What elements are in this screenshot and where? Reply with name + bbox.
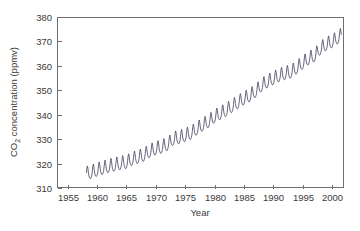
plot-frame: [58, 18, 344, 188]
x-tick-label: 1965: [116, 192, 137, 203]
y-axis-title-prefix: CO: [8, 143, 19, 157]
x-tick-label: 1990: [263, 192, 284, 203]
co2-series-line: [86, 29, 341, 179]
x-tick-label: 1985: [234, 192, 255, 203]
y-tick-label: 330: [36, 134, 52, 145]
x-tick-label: 1960: [87, 192, 108, 203]
x-axis-title: Year: [190, 207, 209, 218]
y-tick-label: 360: [36, 61, 52, 72]
chart-canvas: 310320330340350360370380 195519601965197…: [0, 0, 360, 231]
y-tick-label: 380: [36, 12, 52, 23]
y-tick-label: 310: [36, 183, 52, 194]
y-axis-title-text: CO2 concentration (ppmv): [8, 47, 21, 157]
y-tick-label: 320: [36, 159, 52, 170]
x-tick-label: 1995: [293, 192, 314, 203]
y-tick-label: 350: [36, 85, 52, 96]
chart-figure: 310320330340350360370380 195519601965197…: [0, 0, 360, 231]
x-tick-label: 1980: [205, 192, 226, 203]
x-tick-label: 1955: [58, 192, 79, 203]
x-tick-label: 2000: [322, 192, 343, 203]
y-tick-label: 340: [36, 110, 52, 121]
y-axis-title: CO2 concentration (ppmv): [8, 47, 21, 157]
y-tick-label: 370: [36, 36, 52, 47]
y-axis-title-suffix: concentration (ppmv): [8, 47, 19, 139]
x-tick-label: 1975: [175, 192, 196, 203]
x-tick-label: 1970: [146, 192, 167, 203]
